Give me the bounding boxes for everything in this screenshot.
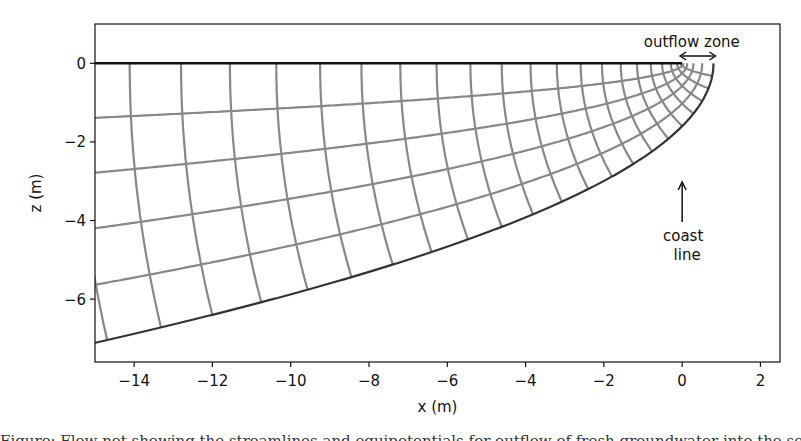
flow-net-grid xyxy=(73,63,712,340)
x-tick-label: 2 xyxy=(756,372,766,390)
x-axis-label: x (m) xyxy=(418,398,458,416)
equipotential xyxy=(130,63,161,327)
x-tick-label: −14 xyxy=(118,372,150,390)
x-tick-label: −4 xyxy=(515,372,537,390)
coast-line-annotation-line2: line xyxy=(674,246,701,264)
y-tick-label: −4 xyxy=(64,212,86,230)
x-tick-label: −10 xyxy=(275,372,307,390)
equipotential xyxy=(361,63,392,264)
y-tick-label: 0 xyxy=(76,55,86,73)
outflow-zone-annotation: outflow zone xyxy=(644,33,740,51)
y-axis-label: z (m) xyxy=(27,174,45,213)
x-axis-ticks: −14−12−10−8−6−4−202 xyxy=(118,362,765,390)
streamline xyxy=(75,63,693,231)
x-tick-label: −8 xyxy=(358,372,380,390)
equipotential xyxy=(400,63,431,252)
double-arrow-icon xyxy=(680,52,715,60)
equipotential xyxy=(181,63,212,315)
equipotential xyxy=(602,63,633,164)
equipotential xyxy=(230,63,261,302)
equipotential xyxy=(437,63,468,239)
coast-line-annotation-line1: coast xyxy=(663,227,703,245)
x-tick-label: −2 xyxy=(593,372,615,390)
equipotential xyxy=(470,63,501,227)
x-tick-label: −6 xyxy=(436,372,458,390)
up-arrow-icon xyxy=(678,182,686,222)
equipotential xyxy=(320,63,351,277)
equipotential xyxy=(662,63,693,113)
streamline xyxy=(73,63,687,174)
figure-caption: Figure: Flow net showing the streamlines… xyxy=(0,428,801,441)
y-tick-label: −6 xyxy=(64,291,86,309)
saltwater-interface-curve xyxy=(95,63,714,343)
flow-net-figure: −14−12−10−8−6−4−202 0−2−4−6 x (m) z (m) … xyxy=(0,0,801,441)
equipotential xyxy=(502,63,533,214)
equipotential xyxy=(276,63,307,289)
y-tick-label: −2 xyxy=(64,133,86,151)
x-tick-label: −12 xyxy=(197,372,229,390)
x-tick-label: 0 xyxy=(677,372,687,390)
streamline xyxy=(74,63,683,119)
y-axis-ticks: 0−2−4−6 xyxy=(64,55,95,309)
